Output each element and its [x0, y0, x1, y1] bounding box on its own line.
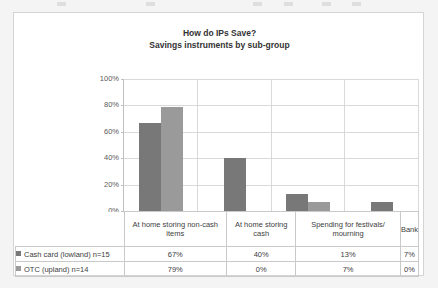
- bar-group: [124, 79, 198, 211]
- legend-label: OTC (upland) n=14: [24, 265, 88, 274]
- y-axis-tick-label: 100%: [79, 75, 119, 83]
- legend-item-series-1: OTC (upland) n=14: [16, 262, 125, 277]
- top-edge-artifacts: [0, 0, 438, 11]
- table-header-category: At home storing cash: [227, 212, 296, 247]
- legend-swatch-icon: [16, 266, 21, 271]
- y-axis-tick-label: 20%: [79, 181, 119, 189]
- bar: [161, 107, 183, 211]
- plot-area: 100%80%60%40%20%0%: [123, 79, 419, 211]
- bar-group: [272, 79, 346, 211]
- category-divider: [418, 79, 419, 211]
- y-axis-tick-label: 60%: [79, 128, 119, 136]
- table-header-category: Bank: [400, 212, 418, 247]
- bar: [224, 158, 246, 211]
- bar: [139, 123, 161, 211]
- chart-panel: How do IPs Save? Savings instruments by …: [13, 12, 424, 276]
- bar: [286, 194, 308, 211]
- legend-swatch-icon: [16, 251, 21, 256]
- table-cell-value: 13%: [296, 247, 401, 262]
- table-cell-value: 0%: [227, 262, 296, 277]
- table-cell-value: 67%: [124, 247, 227, 262]
- bar-group: [198, 79, 272, 211]
- legend-item-series-0: Cash card (lowland) n=15: [16, 247, 125, 262]
- chart-title: How do IPs Save? Savings instruments by …: [14, 27, 425, 51]
- data-table: At home storing non-cash items At home s…: [15, 211, 419, 277]
- table-cell-value: 7%: [296, 262, 401, 277]
- chart-title-line2: Savings instruments by sub-group: [14, 39, 425, 51]
- table-row: Cash card (lowland) n=15 67% 40% 13% 7%: [16, 247, 419, 262]
- table-header-category: At home storing non-cash items: [124, 212, 227, 247]
- table-corner-cell: [16, 212, 125, 247]
- bar: [308, 202, 330, 211]
- table-cell-value: 40%: [227, 247, 296, 262]
- table-header-row: At home storing non-cash items At home s…: [16, 212, 419, 247]
- table-header-category: Spending for festivals/ mourning: [296, 212, 401, 247]
- bar: [371, 202, 393, 211]
- table-row: OTC (upland) n=14 79% 0% 7% 0%: [16, 262, 419, 277]
- table-cell-value: 7%: [400, 247, 418, 262]
- table-cell-value: 0%: [400, 262, 418, 277]
- chart-screenshot: How do IPs Save? Savings instruments by …: [0, 0, 438, 288]
- y-axis-tick-label: 40%: [79, 154, 119, 162]
- legend-label: Cash card (lowland) n=15: [24, 250, 110, 259]
- table-cell-value: 79%: [124, 262, 227, 277]
- y-axis-tick-label: 80%: [79, 101, 119, 109]
- bar-group: [345, 79, 419, 211]
- chart-title-line1: How do IPs Save?: [183, 28, 256, 38]
